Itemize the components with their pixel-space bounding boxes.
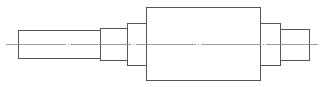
shaft-drawing bbox=[0, 0, 327, 87]
background bbox=[0, 0, 327, 87]
